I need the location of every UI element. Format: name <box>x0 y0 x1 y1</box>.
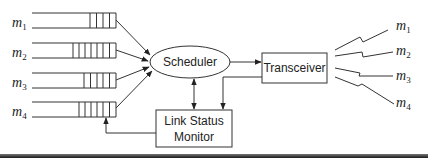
monitor-label-line1: Link Status <box>164 114 223 128</box>
monitor-label-line2: Monitor <box>174 130 214 144</box>
mobile-label-m2: m2 <box>396 43 411 60</box>
queue-m1: m1 <box>12 13 116 32</box>
queue-label-m2: m2 <box>12 45 27 62</box>
wireless-link-m3 <box>335 68 393 76</box>
wireless-link-m1 <box>335 30 388 50</box>
arrow-monitor-to-queue-m4 <box>106 118 156 133</box>
bottom-divider-bar <box>0 154 428 158</box>
wireless-link-m4 <box>335 77 394 104</box>
wireless-link-m2 <box>335 52 393 57</box>
scheduler-node: Scheduler <box>150 46 230 78</box>
wireless-links <box>335 30 394 104</box>
arrow-m3-to-scheduler <box>116 67 149 80</box>
queue-label-m4: m4 <box>12 104 27 121</box>
mobile-label-m1: m1 <box>396 18 411 35</box>
queue-label-m3: m3 <box>12 75 27 92</box>
scheduler-label: Scheduler <box>163 55 217 69</box>
mobile-label-m3: m3 <box>396 68 411 85</box>
queue-label-m1: m1 <box>12 15 27 32</box>
link-status-monitor-node: Link Status Monitor <box>156 110 232 147</box>
mobile-labels: m1 m2 m3 m4 <box>396 18 411 112</box>
transceiver-label: Transceiver <box>263 61 325 75</box>
arrow-m2-to-scheduler <box>116 50 148 61</box>
arrow-transceiver-to-monitor <box>223 77 262 109</box>
queue-m3: m3 <box>12 73 116 92</box>
queue-m4: m4 <box>12 102 116 121</box>
transceiver-node: Transceiver <box>262 53 327 83</box>
scheduler-architecture-diagram: m1 m2 m3 m4 <box>0 0 428 158</box>
arrow-m1-to-scheduler <box>116 20 150 55</box>
queue-m2: m2 <box>12 43 116 62</box>
mobile-label-m4: m4 <box>396 95 411 112</box>
queue-to-scheduler-arrows <box>116 20 152 108</box>
arrow-m4-to-scheduler <box>116 71 152 108</box>
